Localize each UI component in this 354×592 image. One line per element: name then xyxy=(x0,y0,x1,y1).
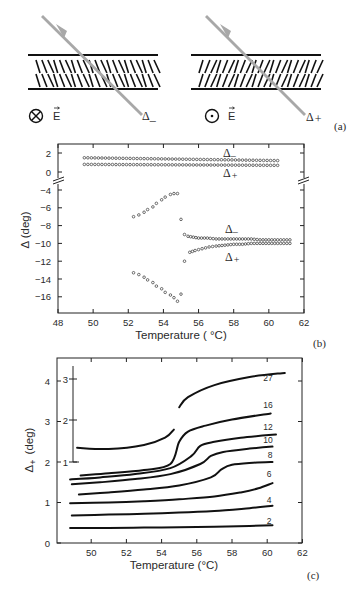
x-axis-title: Temperature ( °C) xyxy=(135,329,227,341)
delta-plus-label: Δ+ xyxy=(306,110,322,126)
molecule xyxy=(317,60,323,73)
x-tick-label: 54 xyxy=(156,547,167,558)
y-tick-label: −14 xyxy=(35,274,51,285)
molecule xyxy=(288,60,292,73)
annotation-delta-minus-lower: Δ_ xyxy=(225,222,239,236)
curve-label-8: 8 xyxy=(268,450,273,460)
panel-a: E Δ_ E Δ+ (a) xyxy=(28,16,347,133)
plot-frame xyxy=(58,144,304,313)
molecule xyxy=(136,74,142,87)
molecule xyxy=(205,60,210,73)
molecule xyxy=(83,74,89,87)
data-points xyxy=(83,156,291,302)
x-axis-title: Temperature (°C) xyxy=(130,559,218,571)
molecule xyxy=(130,74,135,87)
molecule xyxy=(229,60,235,73)
molecules-backslash xyxy=(36,60,160,87)
molecule xyxy=(142,60,146,73)
molecule xyxy=(113,60,118,73)
y-tick-label: −10 xyxy=(35,238,51,249)
y-tick-label: 3 xyxy=(45,416,50,427)
molecule xyxy=(66,60,72,73)
y-tick-label: −8 xyxy=(40,220,51,231)
panel-c: 5052545658606201234123 271612108642 Δ+(d… xyxy=(23,358,320,582)
left-cell: E Δ_ xyxy=(28,16,160,123)
axis-break-icon xyxy=(53,177,309,184)
molecule xyxy=(234,60,238,73)
annotation-delta-plus-upper: Δ+ xyxy=(223,166,238,181)
curve-label-12: 12 xyxy=(263,422,273,432)
panel-label-a: (a) xyxy=(334,120,347,133)
molecule xyxy=(66,74,72,87)
molecule xyxy=(54,60,58,73)
molecule xyxy=(205,74,210,87)
y-tick-label: 2 xyxy=(46,148,51,159)
molecule xyxy=(101,60,107,73)
molecule xyxy=(299,74,305,87)
y-tick-label: −12 xyxy=(35,256,51,267)
molecule xyxy=(199,60,203,73)
molecule xyxy=(119,74,125,87)
field-label: E xyxy=(228,110,235,122)
y-tick-label: −6 xyxy=(40,202,51,213)
molecule xyxy=(154,60,160,73)
x-tick-label: 62 xyxy=(299,317,310,328)
annotation-delta-plus-lower: Δ+ xyxy=(225,250,240,265)
curve-2 xyxy=(70,525,272,528)
molecule xyxy=(305,60,309,73)
molecule xyxy=(293,60,298,73)
field-out-of-page-icon xyxy=(206,110,219,123)
molecule xyxy=(270,60,274,73)
molecule xyxy=(311,60,316,73)
figure: E Δ_ E Δ+ (a) xyxy=(0,0,354,592)
y-axis-title: Δ+(deg) xyxy=(23,427,38,472)
molecule xyxy=(71,74,75,87)
curve-4 xyxy=(72,506,273,516)
molecule xyxy=(148,60,153,73)
molecule xyxy=(311,74,316,87)
y-tick-label: 0 xyxy=(45,538,50,549)
x-tick-label: 58 xyxy=(227,547,238,558)
molecule xyxy=(282,60,288,73)
molecule xyxy=(107,60,111,73)
curve-label-4: 4 xyxy=(267,495,272,505)
molecule xyxy=(60,74,65,87)
molecule xyxy=(264,60,270,73)
y-tick-label: 1 xyxy=(45,497,50,508)
field-into-page-icon xyxy=(30,110,43,123)
molecule xyxy=(258,74,263,87)
molecule xyxy=(130,60,135,73)
molecule xyxy=(125,74,129,87)
molecule xyxy=(48,60,54,73)
panel-b: 485052545658606220−4−6−8−10−12−14−16 Δ_ … xyxy=(19,144,326,350)
curves xyxy=(70,373,285,528)
y-tick-label: 2 xyxy=(45,457,50,468)
curve-label-27: 27 xyxy=(263,373,273,383)
molecule xyxy=(317,74,323,87)
molecule xyxy=(299,60,305,73)
molecule xyxy=(305,74,309,87)
molecule xyxy=(77,60,82,73)
molecule xyxy=(288,74,292,87)
molecule xyxy=(36,60,40,73)
molecule xyxy=(48,74,54,87)
molecule xyxy=(217,60,221,73)
axis-ticks xyxy=(58,144,304,313)
molecule xyxy=(293,74,298,87)
molecule xyxy=(223,60,228,73)
y-tick-label: −4 xyxy=(40,185,51,196)
molecule xyxy=(77,74,82,87)
x-tick-label: 52 xyxy=(121,547,132,558)
y-tick-label: 4 xyxy=(45,376,50,387)
x-tick-label: 60 xyxy=(264,317,275,328)
molecule xyxy=(282,74,288,87)
molecule xyxy=(234,74,238,87)
molecule xyxy=(54,74,58,87)
molecule xyxy=(240,60,245,73)
curve-10 xyxy=(72,447,273,485)
curve-27-low-branch xyxy=(77,430,174,450)
curve-label-10: 10 xyxy=(263,435,273,445)
curve-labels: 271612108642 xyxy=(263,373,273,526)
molecule xyxy=(148,74,153,87)
molecule xyxy=(42,74,47,87)
